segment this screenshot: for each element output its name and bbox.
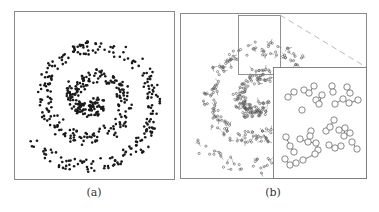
panel-a-frame — [15, 12, 175, 180]
panel-a-label: (a) — [74, 186, 114, 199]
figure-canvas — [0, 0, 379, 212]
zoom-connector-dashed-line — [280, 15, 366, 67]
zoom-region-rectangle — [239, 16, 281, 75]
panel-b-label: (b) — [253, 186, 293, 199]
panel-a-spiral-points — [29, 40, 161, 173]
